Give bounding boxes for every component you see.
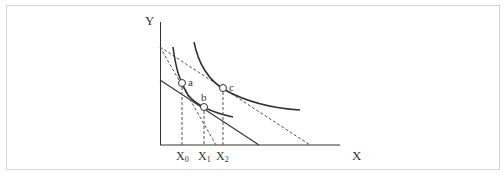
point-b-marker — [201, 104, 208, 111]
indifference-curve-high — [194, 42, 300, 110]
point-b-label: b — [201, 91, 207, 103]
budget-line-original — [160, 80, 259, 145]
budget-line-new — [160, 47, 310, 145]
x-tick-x0: X0 — [176, 149, 189, 164]
point-a-label: a — [188, 76, 193, 88]
y-axis-label: Y — [145, 13, 155, 28]
diagram-canvas: Y X a b c X0 X1 X2 — [0, 0, 503, 175]
point-a-marker — [179, 80, 186, 87]
point-c-label: c — [229, 81, 234, 93]
point-c-marker — [220, 85, 227, 92]
x-axis-label: X — [352, 148, 362, 163]
x-tick-x2: X2 — [216, 149, 229, 164]
x-tick-x1: X1 — [198, 149, 211, 164]
